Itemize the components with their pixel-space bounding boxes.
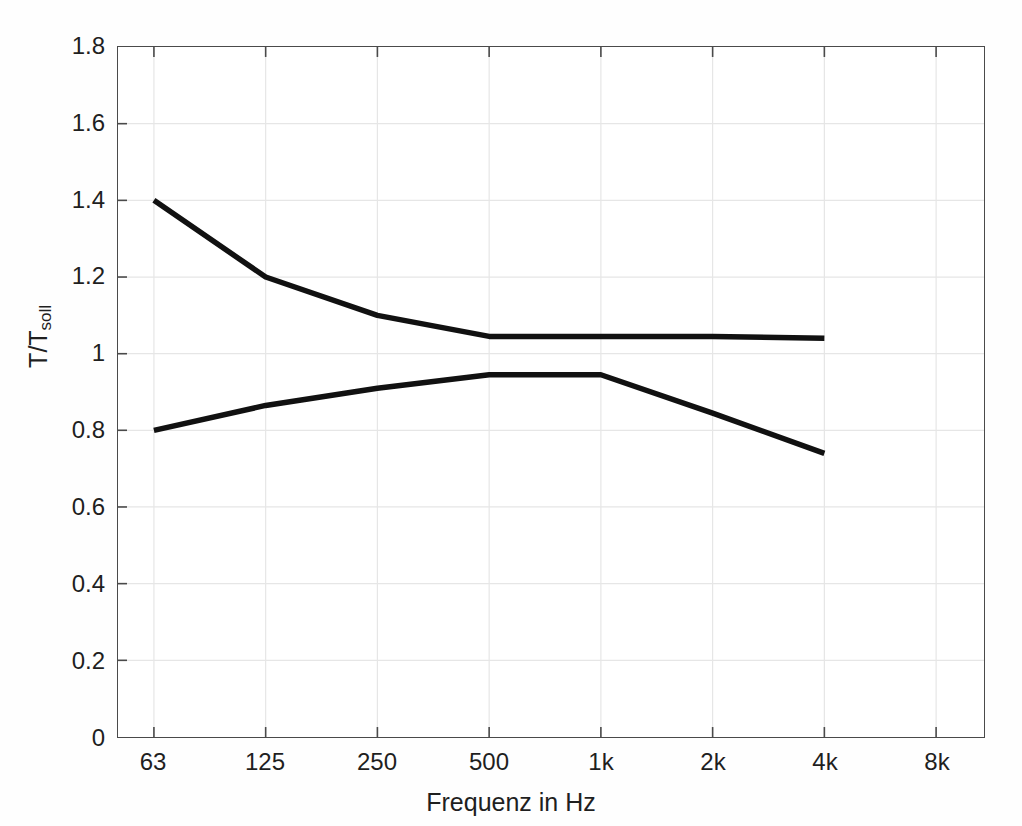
y-tick-label: 0 (92, 726, 105, 750)
x-tick-label: 2k (700, 750, 725, 774)
series-line-upper-tolerance (154, 200, 824, 338)
series-line-lower-tolerance (154, 375, 824, 454)
y-tick-label: 1.6 (72, 111, 105, 135)
chart-figure: 1.8 1.6 1.4 1.2 1 0.8 0.6 0.4 0.2 0 T/Ts… (0, 0, 1022, 826)
y-tick-label: 1.2 (72, 264, 105, 288)
x-tick-label: 1k (588, 750, 613, 774)
y-tick-label: 1.8 (72, 34, 105, 58)
data-series-layer (118, 47, 984, 737)
y-tick-label: 0.8 (72, 418, 105, 442)
x-tick-label: 63 (140, 750, 167, 774)
y-axis-title-main: T/T (24, 330, 52, 368)
x-tick-label: 8k (924, 750, 949, 774)
y-axis-title-subscript: soll (36, 305, 55, 331)
x-tick-label: 125 (245, 750, 285, 774)
y-axis-title: T/Tsoll (24, 236, 57, 436)
y-tick-label: 0.2 (72, 649, 105, 673)
x-tick-label: 4k (812, 750, 837, 774)
y-tick-label: 0.6 (72, 495, 105, 519)
x-tick-label: 250 (357, 750, 397, 774)
x-tick-label: 500 (469, 750, 509, 774)
y-tick-label: 0.4 (72, 572, 105, 596)
x-axis-tick-labels: 63 125 250 500 1k 2k 4k 8k (0, 750, 1022, 784)
y-tick-label: 1 (92, 341, 105, 365)
y-tick-label: 1.4 (72, 188, 105, 212)
x-axis-title: Frequenz in Hz (0, 788, 1022, 817)
plot-area (117, 46, 985, 738)
